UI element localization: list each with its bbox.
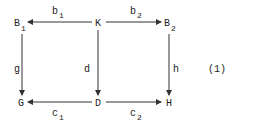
label-c2: c2 [130, 108, 142, 120]
node-d: D [95, 98, 101, 109]
node-g: G [18, 98, 24, 109]
label-h: h [173, 64, 179, 75]
node-b2: B2 [164, 18, 176, 33]
node-h: H [166, 98, 172, 109]
label-b2: b2 [130, 6, 142, 20]
equation-label: (1) [208, 64, 226, 75]
label-c1: c1 [52, 108, 64, 120]
node-k: K [95, 18, 101, 29]
label-g: g [14, 64, 20, 75]
label-b1: b1 [52, 6, 64, 20]
commutative-diagram: B1 K B2 G D H b1 b2 g d h c1 c2 (1) [0, 0, 256, 120]
node-b1: B1 [14, 18, 26, 33]
label-d: d [84, 64, 90, 75]
diagram-svg: B1 K B2 G D H b1 b2 g d h c1 c2 (1) [0, 0, 256, 120]
